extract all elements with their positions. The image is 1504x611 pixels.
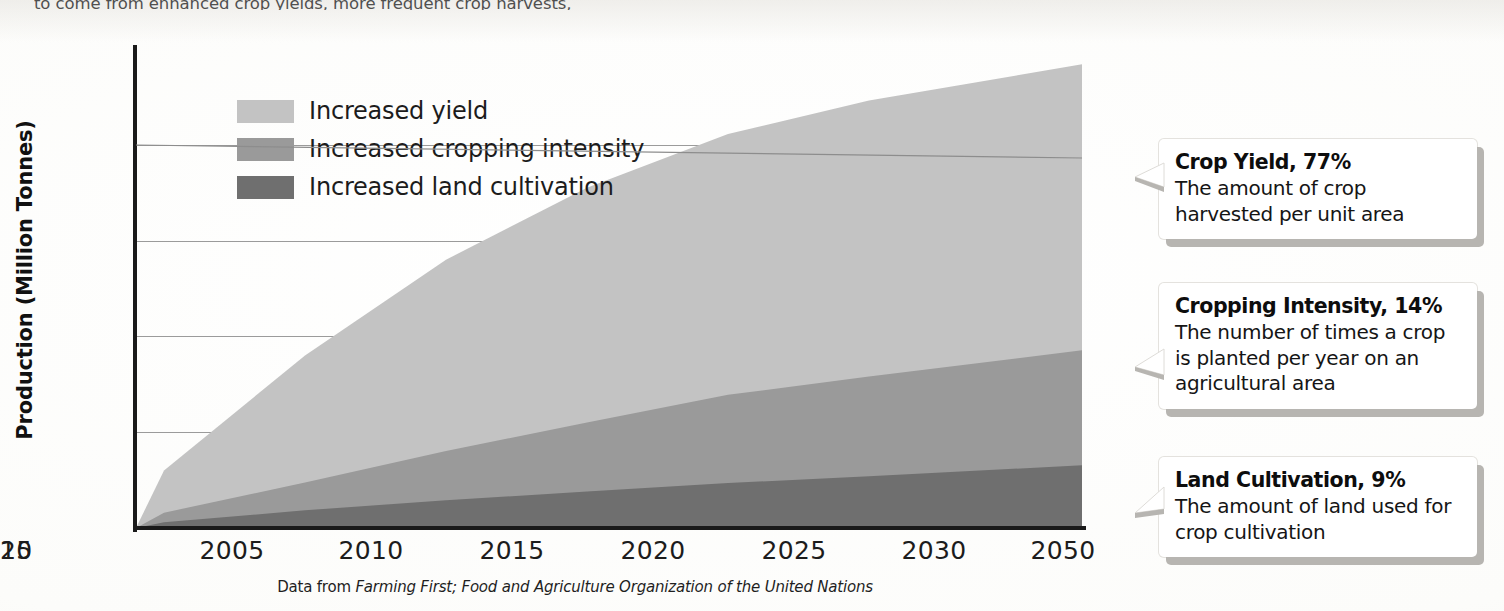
callout-pointer-icon xyxy=(1135,345,1161,375)
legend-label: Increased yield xyxy=(309,97,488,125)
x-tick-label: 2025 xyxy=(762,536,827,565)
legend-item-increased-land-cultivation: Increased land cultivation xyxy=(237,168,644,206)
legend-swatch-icon xyxy=(237,138,294,161)
callout-body-line: The amount of land used for xyxy=(1175,494,1464,520)
legend-swatch-icon xyxy=(237,176,294,199)
source-caption-prefix: Data from xyxy=(277,578,355,596)
x-tick-label: 2030 xyxy=(902,536,967,565)
source-caption-italic: Farming First; Food and Agriculture Orga… xyxy=(355,578,872,596)
callout-body-line: is planted per year on an xyxy=(1175,346,1464,372)
callout-body-line: agricultural area xyxy=(1175,371,1464,397)
callout-title: Cropping Intensity, 14% xyxy=(1175,293,1464,319)
legend-label: Increased cropping intensity xyxy=(309,135,644,163)
x-tick-label: 2050 xyxy=(1031,536,1096,565)
callout-pointer-icon xyxy=(1135,485,1161,515)
callout-cropping-intensity[interactable]: Cropping Intensity, 14% The number of ti… xyxy=(1159,283,1477,409)
source-caption: Data from Farming First; Food and Agricu… xyxy=(0,578,1150,596)
x-tick-label: 2005 xyxy=(200,536,265,565)
callout-title: Crop Yield, 77% xyxy=(1175,149,1464,175)
legend-item-increased-cropping-intensity: Increased cropping intensity xyxy=(237,130,644,168)
callout-body-line: The amount of crop xyxy=(1175,176,1464,202)
callout-body-line: The number of times a crop xyxy=(1175,320,1464,346)
x-tick-label: 2025 xyxy=(0,536,32,565)
callout-title: Land Cultivation, 9% xyxy=(1175,467,1464,493)
y-axis-title: Production (Million Tonnes) xyxy=(13,50,37,510)
x-tick-label: 2015 xyxy=(480,536,545,565)
x-tick-label: 2020 xyxy=(621,536,686,565)
callout-land-cultivation[interactable]: Land Cultivation, 9% The amount of land … xyxy=(1159,457,1477,557)
legend-item-increased-yield: Increased yield xyxy=(237,92,644,130)
x-axis-line xyxy=(133,526,1086,530)
x-tick-label: 2010 xyxy=(339,536,404,565)
legend-swatch-icon xyxy=(237,100,294,123)
callout-group: Crop Yield, 77% The amount of crop harve… xyxy=(1135,0,1504,611)
callout-body-line: harvested per unit area xyxy=(1175,202,1464,228)
callout-pointer-icon xyxy=(1135,161,1161,191)
callout-crop-yield[interactable]: Crop Yield, 77% The amount of crop harve… xyxy=(1159,139,1477,239)
legend-label: Increased land cultivation xyxy=(309,173,614,201)
callout-body-line: crop cultivation xyxy=(1175,520,1464,546)
chart-legend: Increased yield Increased cropping inten… xyxy=(237,92,644,206)
chart-figure: Production (Million Tonnes) 3,400 3,200 … xyxy=(0,0,1150,611)
y-axis-line xyxy=(133,45,137,532)
